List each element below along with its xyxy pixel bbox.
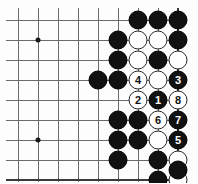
grid-line-vertical [18,8,19,182]
grid-line-vertical [58,8,59,182]
stone-black-move-1: 1 [149,91,168,110]
stone-black-move-7: 7 [169,111,188,130]
move-number-label: 8 [175,95,181,106]
stone-black [169,11,188,30]
stone-white [129,51,148,70]
move-number-label: 5 [175,135,181,146]
stone-black [109,131,128,150]
stone-white [149,31,168,50]
stone-black [149,151,168,170]
stone-black [129,131,148,150]
stone-black [129,11,148,30]
stone-black-move-5: 5 [169,131,188,150]
grid-line-vertical [78,8,79,182]
stone-black [149,51,168,70]
stone-white-move-8: 8 [169,91,188,110]
move-number-label: 2 [135,95,141,106]
stone-black [149,11,168,30]
stone-black [109,31,128,50]
stone-black [129,111,148,130]
move-number-label: 4 [135,75,141,86]
stone-white-move-6: 6 [149,111,168,130]
stone-white-move-4: 4 [129,71,148,90]
stone-black-move-3: 3 [169,71,188,90]
stone-black [169,161,188,180]
grid-line-vertical [98,8,99,182]
go-board-diagram: 43218675 [0,0,198,183]
move-number-label: 3 [175,75,181,86]
stone-white [149,71,168,90]
move-number-label: 6 [155,115,161,126]
stone-black [169,31,188,50]
stone-white-move-2: 2 [129,91,148,110]
move-number-label: 1 [155,95,161,106]
move-number-label: 7 [175,115,181,126]
stone-black [109,111,128,130]
grid-line-vertical [38,8,39,182]
stone-black [109,71,128,90]
stone-black [109,151,128,170]
stone-white [129,31,148,50]
stone-black [89,71,108,90]
stone-black [149,171,168,184]
star-point [36,138,41,143]
stone-white [169,51,188,70]
stone-white [149,131,168,150]
stone-black [109,51,128,70]
star-point [36,38,41,43]
